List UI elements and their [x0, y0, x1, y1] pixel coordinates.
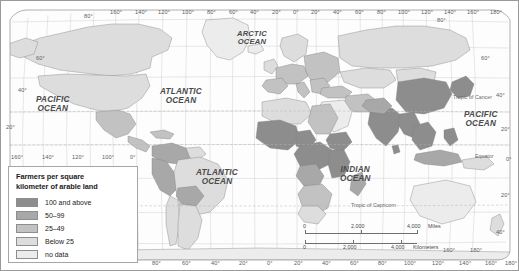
lat-left-80n: 80°	[84, 14, 93, 20]
ocean-label-pacific-ocean-east: PACIFICOCEAN	[464, 111, 498, 129]
lon-top-160w: 160°	[110, 10, 122, 16]
lon-top-20w: 20°	[272, 10, 281, 16]
legend-swatch-25-49	[16, 224, 38, 233]
lon-top-40e: 40°	[333, 10, 342, 16]
lon-top-80w: 80°	[207, 10, 216, 16]
scale-unit-kilometers: Kilometers	[413, 245, 438, 250]
lon-top-40w: 40°	[250, 10, 259, 16]
ocean-label-pacific-ocean-west: PACIFICOCEAN	[36, 96, 70, 114]
lon-top-120e: 120°	[421, 10, 433, 16]
lon-top-20e: 20°	[311, 10, 320, 16]
scale-tick-miles-2000	[361, 230, 362, 234]
lat-left-40n: 40°	[18, 88, 27, 94]
legend-item-25-49[interactable]: 25–49	[16, 222, 131, 235]
lat-left-60n: 60°	[36, 56, 45, 62]
lon-top-100w: 100°	[182, 10, 194, 16]
lon-bot-20w: 20°	[239, 261, 248, 267]
lon-bot-100e: 100°	[404, 261, 416, 267]
label-tropic-of-capricorn: Tropic of Capricorn	[351, 203, 396, 208]
lat-right-40s: 40°	[496, 230, 505, 236]
legend-label-50-99: 50–99	[45, 212, 64, 219]
lon-int-160w: 160°	[11, 155, 23, 161]
ocean-label-indian-ocean: INDIANOCEAN	[340, 166, 371, 184]
lat-right-40n: 40°	[496, 93, 505, 99]
lon-br-180: 180°	[470, 248, 482, 254]
lat-right-0: 0°	[506, 157, 512, 163]
lon-bot-60w: 60°	[182, 261, 191, 267]
scale-label-km-0: 0	[303, 245, 306, 250]
lon-top-140e: 140°	[444, 10, 456, 16]
scale-tick-miles-4000	[417, 230, 418, 234]
lon-int-140w: 140°	[42, 155, 54, 161]
legend-swatch-50-99	[16, 211, 38, 220]
lon-top-160e: 160°	[467, 10, 479, 16]
legend-label-below-25: Below 25	[45, 238, 74, 245]
lat-right-80n: 80°	[437, 18, 446, 24]
lon-bot-180: 180°	[505, 261, 517, 267]
legend-title: Farmers per square kilometer of arable l…	[16, 172, 131, 192]
legend-label-100-and-above: 100 and above	[45, 199, 91, 206]
lon-bot-40w: 40°	[211, 261, 220, 267]
lon-top-0: 0°	[293, 10, 299, 16]
lon-br-160e: 160°	[443, 248, 455, 254]
map-legend: Farmers per square kilometer of arable l…	[8, 166, 138, 263]
lon-bot-160e: 160°	[485, 261, 497, 267]
scale-bar: 0 2,000 4,000 Miles 0 2,000 4,000 Kilome…	[303, 224, 443, 252]
lon-int-120w: 120°	[72, 155, 84, 161]
legend-swatch-below-25	[16, 237, 38, 246]
scale-label-miles-0: 0	[303, 224, 306, 229]
label-tropic-of-cancer: Tropic of Cancer	[453, 95, 492, 100]
legend-label-no-data: no data	[45, 251, 68, 258]
label-equator: Equator	[475, 154, 494, 159]
legend-item-no-data[interactable]: no data	[16, 248, 131, 261]
lon-int-100w: 100°	[102, 155, 114, 161]
legend-swatch-no-data	[16, 250, 38, 259]
scale-unit-miles: Miles	[428, 224, 441, 229]
lon-top-140w: 140°	[135, 10, 147, 16]
lon-bot-40e: 40°	[322, 261, 331, 267]
lon-bot-80w: 80°	[152, 261, 161, 267]
lon-int-0: 0°	[130, 155, 136, 161]
lat-left-20n: 20°	[6, 125, 15, 131]
lat-right-60n: 60°	[481, 56, 490, 62]
lat-right-20s: 20°	[501, 193, 510, 199]
lat-right-20n: 20°	[501, 127, 510, 133]
lon-top-60w: 60°	[229, 10, 238, 16]
scale-label-km-2000: 2,000	[343, 245, 357, 250]
lon-bot-120e: 120°	[432, 261, 444, 267]
legend-item-100-and-above[interactable]: 100 and above	[16, 196, 131, 209]
lon-bot-20e: 20°	[294, 261, 303, 267]
scale-label-miles-4000: 4,000	[407, 224, 421, 229]
ocean-label-arctic-ocean: ARCTICOCEAN	[237, 30, 267, 46]
legend-swatch-100-and-above	[16, 198, 38, 207]
lon-top-80e: 80°	[377, 10, 386, 16]
scale-tick-miles-0	[305, 230, 306, 234]
lon-bot-60e: 60°	[350, 261, 359, 267]
scale-label-km-4000: 4,000	[391, 245, 405, 250]
legend-label-25-49: 25–49	[45, 225, 64, 232]
lon-bot-0: 0°	[267, 261, 273, 267]
scale-label-miles-2000: 2,000	[351, 224, 365, 229]
lon-top-60e: 60°	[355, 10, 364, 16]
legend-item-below-25[interactable]: Below 25	[16, 235, 131, 248]
lon-top-120w: 120°	[158, 10, 170, 16]
ocean-label-atlantic-ocean-south: ATLANTICOCEAN	[196, 169, 238, 187]
lon-bot-80e: 80°	[378, 261, 387, 267]
world-map: ARCTICOCEAN ATLANTICOCEAN ATLANTICOCEAN …	[0, 0, 519, 271]
legend-item-50-99[interactable]: 50–99	[16, 209, 131, 222]
ocean-label-atlantic-ocean-north: ATLANTICOCEAN	[160, 88, 202, 106]
lon-top-100e: 100°	[398, 10, 410, 16]
lon-top-180: 180°	[490, 10, 502, 16]
lon-bot-140e: 140°	[459, 261, 471, 267]
